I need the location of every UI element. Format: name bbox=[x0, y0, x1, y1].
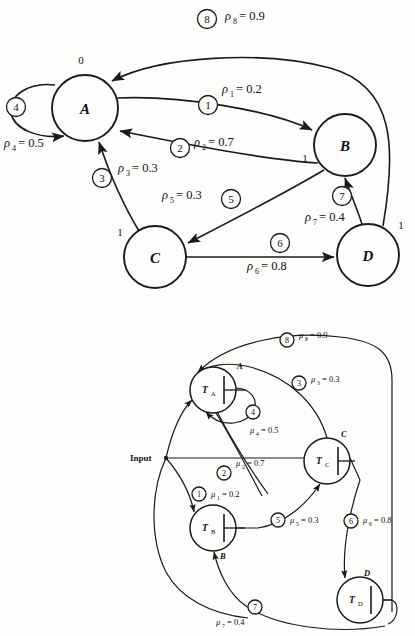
edge-weight-8: ρ 8 = 0.9 bbox=[224, 9, 265, 26]
rho5-symbol: ρ bbox=[161, 188, 168, 202]
mu4-value: = 0.5 bbox=[261, 425, 279, 435]
rho1-symbol: ρ bbox=[221, 82, 228, 96]
mu1-sub: 1 bbox=[217, 495, 220, 501]
mu3-value: = 0.3 bbox=[322, 374, 340, 384]
rho4-value: = 0.5 bbox=[18, 136, 44, 150]
net-tag-5-label: 5 bbox=[276, 516, 280, 525]
mu3-sub: 3 bbox=[317, 380, 320, 386]
gate-tc-sub: C bbox=[325, 461, 329, 468]
edge-tag-1-label: 1 bbox=[205, 99, 211, 111]
graph-node-c-label: C bbox=[150, 250, 161, 266]
mu2-value: = 0.7 bbox=[247, 458, 265, 468]
edge-tag-8-label: 8 bbox=[204, 13, 210, 25]
net-tag-3-label: 3 bbox=[297, 379, 301, 388]
mu1-value: = 0.2 bbox=[222, 489, 240, 499]
mu5-sub: 5 bbox=[296, 521, 299, 527]
mu6-symbol: μ bbox=[362, 515, 367, 525]
net-weight-7: μ 7 = 0.4 bbox=[215, 617, 245, 629]
net-tag-8-label: 8 bbox=[285, 336, 289, 345]
mu7-symbol: μ bbox=[215, 617, 220, 627]
edge-weight-4: ρ 4 = 0.5 bbox=[3, 136, 44, 153]
edge-tag-4-label: 4 bbox=[13, 101, 19, 113]
mu5-value: = 0.3 bbox=[301, 515, 319, 525]
mu4-symbol: μ bbox=[249, 425, 254, 435]
net-tag-7-label: 7 bbox=[253, 603, 257, 612]
rho5-value: = 0.3 bbox=[176, 188, 202, 202]
rho7-symbol: ρ bbox=[304, 210, 311, 224]
mu8-sub: 8 bbox=[305, 336, 308, 342]
net-weight-5: μ 5 = 0.3 bbox=[289, 515, 319, 527]
mu8-value: = 0.9 bbox=[310, 330, 328, 340]
input-label: Input bbox=[130, 453, 152, 463]
figure-canvas: A B C D 0 1 1 1 8 1 2 3 4 5 6 7 ρ 8 = 0.… bbox=[0, 0, 415, 636]
gate-tb-sub: B bbox=[211, 528, 216, 535]
net-weight-6: μ 6 = 0.8 bbox=[362, 515, 392, 527]
port-label-d1: 1 bbox=[398, 219, 404, 231]
mu7-sub: 7 bbox=[222, 623, 225, 629]
bottom-threshold-network: T A A T B B T C C T D D Input 8 μ 8 = 0.… bbox=[130, 330, 397, 629]
rho8-value: = 0.9 bbox=[239, 9, 265, 23]
mu1-symbol: μ bbox=[210, 489, 215, 499]
net-port-d-label: D bbox=[363, 568, 370, 578]
rho1-value: = 0.2 bbox=[236, 82, 262, 96]
mu4-sub: 4 bbox=[256, 431, 259, 437]
mu6-sub: 6 bbox=[369, 521, 372, 527]
mu7-value: = 0.4 bbox=[227, 617, 245, 627]
net-tag-4-label: 4 bbox=[251, 408, 255, 417]
net-tag-1-label: 1 bbox=[197, 490, 201, 499]
graph-node-b-label: B bbox=[339, 138, 350, 154]
net-port-a-label: A bbox=[236, 361, 243, 371]
edge-tag-3-label: 3 bbox=[99, 172, 105, 184]
net-weight-8: μ 8 = 0.9 bbox=[298, 330, 328, 342]
net-edge-7-tail bbox=[383, 600, 397, 624]
graph-node-d-label: D bbox=[362, 248, 374, 264]
edge-5-path bbox=[188, 170, 324, 243]
net-port-c-label: C bbox=[341, 429, 347, 439]
gate-ta-sub: A bbox=[211, 390, 216, 397]
mu8-symbol: μ bbox=[298, 330, 303, 340]
rho2-sub: 2 bbox=[202, 143, 206, 152]
edge-tag-6-label: 6 bbox=[277, 237, 283, 249]
rho5-sub: 5 bbox=[170, 196, 174, 205]
rho3-symbol: ρ bbox=[117, 161, 124, 175]
rho3-sub: 3 bbox=[126, 169, 130, 178]
graph-node-a-label: A bbox=[79, 101, 90, 117]
rho4-symbol: ρ bbox=[3, 136, 10, 150]
port-label-c1: 1 bbox=[117, 226, 123, 238]
net-tag-6-label: 6 bbox=[349, 517, 353, 526]
rho1-sub: 1 bbox=[230, 90, 234, 99]
net-tag-2-label: 2 bbox=[222, 469, 226, 478]
mu5-symbol: μ bbox=[289, 515, 294, 525]
edge-weight-1: ρ 1 = 0.2 bbox=[221, 82, 262, 99]
rho7-sub: 7 bbox=[313, 218, 317, 227]
rho8-symbol: ρ bbox=[224, 9, 231, 23]
figure-svg: A B C D 0 1 1 1 8 1 2 3 4 5 6 7 ρ 8 = 0.… bbox=[0, 0, 415, 636]
top-state-graph: A B C D 0 1 1 1 8 1 2 3 4 5 6 7 ρ 8 = 0.… bbox=[3, 9, 404, 288]
gate-td-sub: D bbox=[358, 600, 363, 607]
edge-weight-7: ρ 7 = 0.4 bbox=[304, 210, 346, 227]
mu2-symbol: μ bbox=[235, 458, 240, 468]
net-edge-1-path bbox=[166, 458, 194, 512]
net-weight-4: μ 4 = 0.5 bbox=[249, 425, 279, 437]
rho7-value: = 0.4 bbox=[319, 210, 346, 224]
edge-weight-5: ρ 5 = 0.3 bbox=[161, 188, 202, 205]
rho2-value: = 0.7 bbox=[208, 135, 234, 149]
rho8-sub: 8 bbox=[233, 17, 237, 26]
rho3-value: = 0.3 bbox=[132, 161, 158, 175]
net-weight-1: μ 1 = 0.2 bbox=[210, 489, 240, 501]
mu3-symbol: μ bbox=[310, 374, 315, 384]
rho2-symbol: ρ bbox=[193, 135, 200, 149]
net-port-b-label: B bbox=[219, 551, 226, 561]
edge-tag-5-label: 5 bbox=[228, 193, 234, 205]
rho6-value: = 0.8 bbox=[261, 259, 287, 273]
rho6-sub: 6 bbox=[255, 267, 259, 276]
edge-weight-3: ρ 3 = 0.3 bbox=[117, 161, 158, 178]
net-input-to-ta-path bbox=[166, 400, 192, 458]
edge-tag-7-label: 7 bbox=[339, 190, 345, 202]
rho6-symbol: ρ bbox=[246, 259, 253, 273]
port-label-b1: 1 bbox=[302, 152, 308, 164]
edge-weight-6: ρ 6 = 0.8 bbox=[246, 259, 287, 276]
port-label-a0: 0 bbox=[78, 54, 84, 66]
net-weight-3: μ 3 = 0.3 bbox=[310, 374, 340, 386]
mu2-sub: 2 bbox=[242, 464, 245, 470]
